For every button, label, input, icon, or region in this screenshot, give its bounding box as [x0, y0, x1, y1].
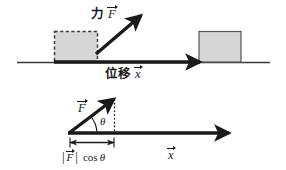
final-position-box — [199, 32, 241, 63]
bottom-displacement-vector-label: x — [168, 146, 174, 162]
force-label-top: 力 F — [91, 7, 116, 21]
abs-bar-close: | — [75, 150, 78, 163]
cosine-operator: cos — [83, 152, 98, 163]
projection-magnitude-label: | F | cos θ — [62, 150, 105, 163]
force-label-symbol: F — [108, 7, 116, 21]
displacement-label-symbol: x — [135, 67, 141, 81]
projection-force-symbol: F — [67, 151, 74, 163]
figure-canvas — [0, 0, 286, 170]
cosine-angle-symbol: θ — [100, 152, 105, 163]
theta-angle-label: θ — [100, 116, 105, 127]
force-vector-arrow — [96, 16, 141, 55]
displacement-label-word: 位移 — [105, 68, 131, 81]
bottom-force-vector-arrow — [69, 99, 114, 133]
physics-figure: 力 F 位移 x F θ | F | cos θ x — [0, 0, 286, 170]
force-label-word: 力 — [91, 8, 104, 21]
initial-position-box — [55, 32, 98, 63]
displacement-label-top: 位移 x — [105, 67, 141, 81]
abs-bar-open: | — [62, 150, 65, 163]
bottom-force-vector-label: F — [78, 99, 86, 115]
